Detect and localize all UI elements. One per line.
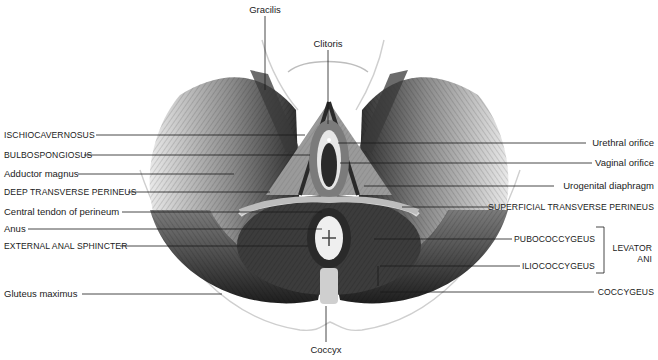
label-ischiocavernosus: ISCHIOCAVERNOSUS	[4, 129, 95, 141]
label-iliococcygeus: ILIOCOCCYGEUS	[522, 260, 595, 272]
label-gracilis: Gracilis	[249, 4, 281, 16]
label-urethral-orifice: Urethral orifice	[592, 137, 654, 149]
label-gluteus-maximus: Gluteus maximus	[4, 288, 77, 300]
label-bulbospongiosus: BULBOSPONGIOSUS	[4, 149, 92, 161]
label-pubococcygeus: PUBOCOCCYGEUS	[514, 233, 595, 245]
label-coccygeus: COCCYGEUS	[598, 286, 654, 298]
label-clitoris: Clitoris	[313, 38, 342, 50]
label-levator-ani-line2: ANI	[637, 253, 652, 265]
label-coccyx: Coccyx	[310, 344, 341, 356]
label-adductor-magnus: Adductor magnus	[4, 168, 78, 180]
anal-region	[307, 208, 351, 268]
label-superficial-transverse-perineus: SUPERFICIAL TRANSVERSE PERINEUS	[488, 201, 654, 213]
label-external-anal-sphincter: EXTERNAL ANAL SPHINCTER	[4, 240, 127, 252]
coccyx-shape	[320, 268, 338, 304]
vulva	[309, 120, 349, 200]
perineum-illustration	[0, 0, 658, 360]
label-central-tendon: Central tendon of perineum	[4, 206, 119, 218]
label-vaginal-orifice: Vaginal orifice	[595, 157, 654, 169]
label-anus: Anus	[4, 223, 26, 235]
label-urogenital-diaphragm: Urogenital diaphragm	[563, 180, 654, 192]
label-deep-transverse-perineus: DEEP TRANSVERSE PERINEUS	[4, 186, 136, 198]
